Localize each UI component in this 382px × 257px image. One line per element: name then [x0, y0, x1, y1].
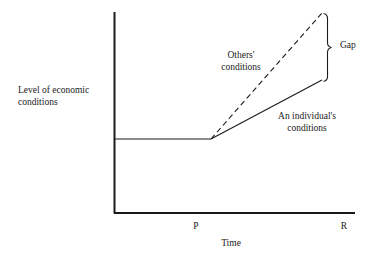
- gap-label: Gap: [340, 40, 380, 52]
- economic-conditions-figure: Level of economic conditions Others' con…: [0, 0, 382, 257]
- x-axis-label: Time: [205, 238, 257, 250]
- others-conditions-label: Others' conditions: [205, 50, 277, 73]
- gap-brace: [324, 14, 332, 82]
- individual-conditions-label: An individual's conditions: [264, 111, 350, 134]
- x-tick-label-p: P: [186, 221, 206, 233]
- x-tick-label-r: R: [334, 221, 354, 233]
- y-axis-label: Level of economic conditions: [18, 85, 114, 108]
